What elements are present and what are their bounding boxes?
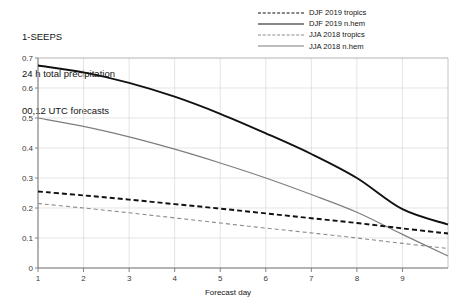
x-tick-label: 4 <box>172 274 177 283</box>
y-tick-label: 0.3 <box>22 174 34 183</box>
x-tick-label: 3 <box>127 274 132 283</box>
x-tick-label: 1 <box>36 274 41 283</box>
x-tick-label: 5 <box>218 274 223 283</box>
series-line <box>38 66 448 225</box>
x-tick-label: 7 <box>309 274 314 283</box>
x-tick-label: 8 <box>355 274 360 283</box>
y-tick-label: 0 <box>29 264 34 273</box>
x-axis-label: Forecast day <box>0 288 456 297</box>
series-line <box>38 192 448 234</box>
y-tick-label: 0.7 <box>22 54 34 63</box>
y-tick-label: 0.5 <box>22 114 34 123</box>
x-tick-label: 9 <box>400 274 405 283</box>
series-line <box>38 118 448 256</box>
y-tick-label: 0.6 <box>22 84 34 93</box>
plot-area: 00.10.20.30.40.50.60.7123456789 <box>0 0 456 307</box>
x-tick-label: 2 <box>81 274 86 283</box>
y-tick-label: 0.1 <box>22 234 34 243</box>
y-tick-label: 0.4 <box>22 144 34 153</box>
chart-container: 1-SEEPS 24 h total precipitation 00,12 U… <box>0 0 456 307</box>
y-tick-label: 0.2 <box>22 204 34 213</box>
x-tick-label: 6 <box>264 274 269 283</box>
